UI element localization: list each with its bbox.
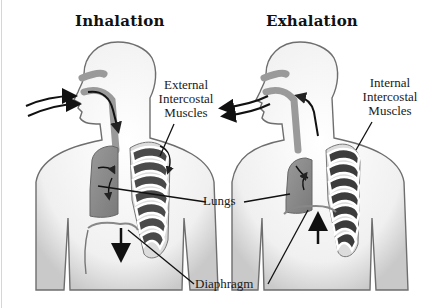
lungs-label: Lungs: [203, 194, 236, 208]
respiration-diagram: Inhalation Exhalation External Intercost…: [0, 0, 438, 308]
diaphragm-label: Diaphragm: [195, 277, 253, 291]
diagram-artwork: [0, 0, 438, 308]
external-intercostal-label: External Intercostal Muscles: [146, 78, 226, 120]
lung-right: [286, 158, 312, 213]
lung-left: [90, 146, 118, 217]
airflow-in-arrow-2: [28, 104, 78, 116]
internal-intercostal-label: Internal Intercostal Muscles: [350, 76, 430, 118]
inhalation-title: Inhalation: [75, 12, 165, 30]
exhalation-title: Exhalation: [266, 12, 358, 30]
